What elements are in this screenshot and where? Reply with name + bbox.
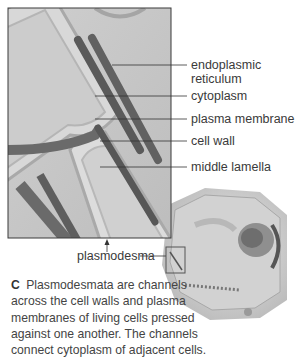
caption-text: Plasmodesmata are channels across the ce…	[11, 278, 206, 357]
arrow-up-icon	[105, 239, 110, 245]
label-cell-wall: cell wall	[191, 134, 235, 148]
label-plasma-membrane: plasma membrane	[191, 112, 295, 126]
label-endoplasmic-reticulum: endoplasmic reticulum	[191, 58, 261, 86]
label-plasmodesma: plasmodesma	[77, 249, 155, 263]
label-middle-lamella: middle lamella	[191, 160, 271, 174]
panel-letter: C	[11, 278, 20, 292]
label-cytoplasm: cytoplasm	[191, 89, 247, 103]
figure-caption: C Plasmodesmata are channels across the …	[11, 277, 211, 358]
label-er-line1: endoplasmic	[191, 58, 261, 72]
label-er-line2: reticulum	[191, 72, 242, 86]
